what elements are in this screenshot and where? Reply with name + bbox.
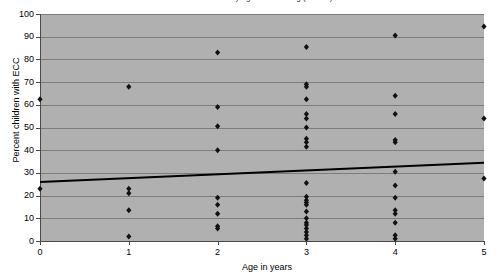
plot-canvas (0, 0, 498, 277)
scatter-plot-figure: Percent with ECC by age at screening (sc… (0, 0, 498, 277)
plot-background (40, 14, 484, 241)
